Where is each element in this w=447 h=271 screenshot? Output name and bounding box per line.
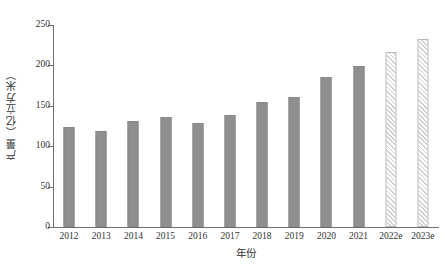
bar-slot-2014 [117,25,149,227]
bar-2013[interactable] [96,131,107,227]
y-tick-label: 150 [36,99,50,112]
y-tick-label: 0 [45,220,50,233]
bars-layer [53,25,439,227]
bar-chart: 产量（亿立方米） 050100150200250 201220132014201… [0,0,447,271]
bar-slot-2015 [150,25,182,227]
x-axis-tick-labels: 2012201320142015201620172018201920202021… [53,229,439,245]
bar-slot-2019 [278,25,310,227]
bar-2020[interactable] [321,77,332,227]
bar-slot-2020 [310,25,342,227]
y-tick-label: 200 [36,58,50,71]
bar-slot-2016 [182,25,214,227]
x-tick-label-2017: 2017 [214,229,246,243]
bar-2021[interactable] [353,66,364,227]
x-tick-label-2018: 2018 [246,229,278,243]
x-tick-label-2020: 2020 [310,229,342,243]
bar-2018[interactable] [257,102,268,227]
bar-slot-2021 [343,25,375,227]
y-tick-label: 100 [36,139,50,152]
x-tick-label-2022e: 2022e [375,229,407,243]
x-tick-label-2013: 2013 [85,229,117,243]
bar-2023e[interactable] [417,39,428,227]
x-tick-label-2015: 2015 [150,229,182,243]
y-axis-title: 产量（亿立方米） [0,0,22,227]
plot-area: 050100150200250 [53,25,439,227]
y-tick-label: 250 [36,18,50,31]
x-axis-title: 年份 [53,246,439,261]
bar-slot-2022e [375,25,407,227]
bar-slot-2018 [246,25,278,227]
bar-2019[interactable] [289,97,300,227]
bar-slot-2017 [214,25,246,227]
x-axis-line [53,227,439,228]
bar-2022e[interactable] [385,52,396,227]
x-tick-label-2014: 2014 [117,229,149,243]
x-tick-label-2012: 2012 [53,229,85,243]
x-tick-label-2016: 2016 [182,229,214,243]
bar-slot-2023e [407,25,439,227]
y-tick-label: 50 [41,180,51,193]
bar-slot-2013 [85,25,117,227]
bar-2014[interactable] [128,121,139,227]
y-axis-title-label: 产量（亿立方米） [4,68,19,160]
bar-2012[interactable] [64,127,75,227]
x-tick-label-2019: 2019 [278,229,310,243]
bar-2017[interactable] [224,115,235,227]
bar-2016[interactable] [192,123,203,227]
x-tick-label-2021: 2021 [343,229,375,243]
x-tick-label-2023e: 2023e [407,229,439,243]
bar-slot-2012 [53,25,85,227]
bar-2015[interactable] [160,117,171,227]
